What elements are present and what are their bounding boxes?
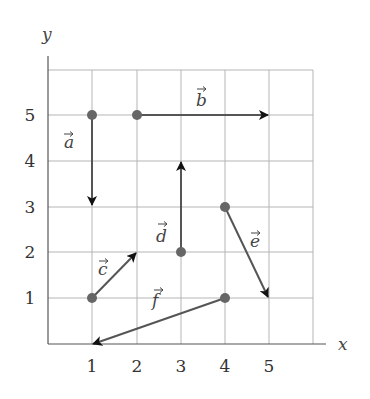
y-tick-labels: 1 2 3 4 5 (25, 105, 36, 308)
svg-text:d: d (156, 226, 167, 246)
svg-text:2: 2 (25, 242, 36, 262)
svg-text:1: 1 (87, 356, 98, 376)
svg-text:a: a (64, 132, 74, 152)
svg-text:1: 1 (25, 288, 36, 308)
origin-dot-f (220, 293, 230, 303)
label-c: c (98, 259, 108, 280)
y-axis-label: y (41, 24, 52, 44)
svg-text:3: 3 (25, 197, 36, 217)
label-e: e (250, 231, 260, 252)
svg-text:5: 5 (264, 356, 275, 376)
origin-dot-b (132, 110, 142, 120)
svg-text:2: 2 (132, 356, 143, 376)
svg-text:b: b (196, 90, 207, 110)
svg-text:4: 4 (25, 151, 36, 171)
label-a: a (64, 132, 74, 153)
svg-text:3: 3 (176, 356, 187, 376)
origin-dot-c (87, 293, 97, 303)
origin-dot-d (176, 247, 186, 257)
x-tick-labels: 1 2 3 4 5 (87, 356, 275, 376)
origin-dot-e (220, 202, 230, 212)
vector-diagram: x y 1 2 3 4 5 1 2 3 4 5 a b (0, 0, 370, 399)
vector-f (93, 298, 225, 344)
svg-text:5: 5 (25, 105, 36, 125)
label-b: b (196, 87, 207, 111)
label-f: f (150, 288, 163, 311)
svg-text:f: f (150, 290, 161, 310)
label-d: d (156, 222, 167, 247)
origin-dot-a (87, 110, 97, 120)
x-axis-label: x (338, 334, 348, 354)
svg-text:4: 4 (220, 356, 231, 376)
